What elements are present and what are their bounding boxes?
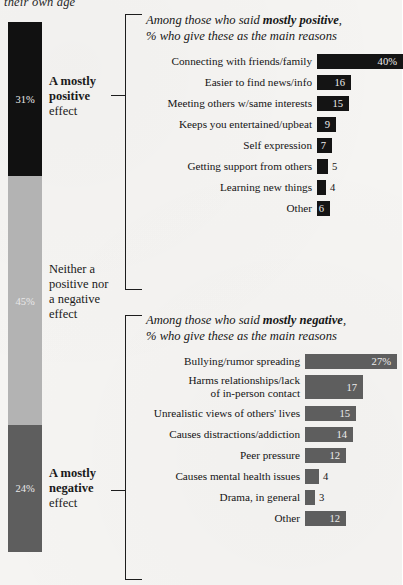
- bar-row: Bullying/rumor spreading27%: [146, 353, 398, 369]
- bar-value-label: 15: [332, 98, 349, 109]
- bar: [305, 469, 319, 484]
- bar-value-label: 14: [336, 429, 353, 440]
- bar-track: 40%: [317, 53, 403, 69]
- bar-row-label: Easier to find news/info: [146, 76, 317, 89]
- bar-value-label: 15: [339, 408, 356, 419]
- bar-value-label: 9: [325, 119, 336, 130]
- bar-value-label: 40%: [378, 56, 403, 67]
- bar-value-label: 17: [346, 382, 363, 393]
- bar-track: 5: [317, 158, 398, 174]
- bar-row-label: Causes distractions/addiction: [146, 428, 305, 441]
- bar: [317, 159, 328, 174]
- bar-row: Self expression7: [146, 137, 398, 153]
- negative-reasons-rows: Bullying/rumor spreading27%Harms relatio…: [146, 353, 398, 526]
- bar-row-label: Peer pressure: [146, 449, 305, 462]
- bar: 6: [317, 201, 330, 216]
- bar-row-label: Learning new things: [146, 181, 317, 194]
- panel-negative-title-line2: % who give these as the main reasons: [146, 329, 337, 343]
- stack-segment-negative: 24%: [8, 425, 42, 552]
- top-caption: their own age: [4, 0, 75, 10]
- bar-row-label: Causes mental health issues: [146, 470, 305, 483]
- panel-positive-title-line2: % who give these as the main reasons: [146, 29, 337, 43]
- bar: 40%: [317, 54, 403, 69]
- bar: 12: [305, 448, 346, 463]
- category-label-positive: A mostly positive effect: [49, 74, 119, 119]
- connector-bracket-positive: [125, 14, 142, 290]
- bar-track: 7: [317, 137, 398, 153]
- bar-track: 12: [305, 510, 398, 526]
- bar: [305, 490, 315, 505]
- bar-row-label: Unrealistic views of others' lives: [146, 407, 305, 420]
- bar-row: Other12: [146, 510, 398, 526]
- bar-row-label: Bullying/rumor spreading: [146, 355, 305, 368]
- stack-segment-positive: 31%: [8, 22, 42, 176]
- connector-stub-negative: [111, 490, 126, 491]
- bar-row: Connecting with friends/family40%: [146, 53, 398, 69]
- bar-track: 4: [317, 179, 398, 195]
- bar-row: Harms relationships/lack of in-person co…: [146, 374, 398, 400]
- bar: 15: [305, 406, 356, 421]
- bar-track: 16: [317, 74, 398, 90]
- category-label-neutral-line4: effect: [49, 307, 77, 321]
- panel-negative-title: Among those who said mostly negative, % …: [146, 312, 398, 344]
- bar-track: 27%: [305, 353, 398, 369]
- panel-positive-title-post: ,: [339, 13, 342, 27]
- bar-value-label: 6: [319, 203, 330, 214]
- bar-value-label: 3: [315, 492, 324, 503]
- bar-row: Causes distractions/addiction14: [146, 426, 398, 442]
- stack-segment-neutral: 45%: [8, 176, 42, 425]
- bar-row: Other6: [146, 200, 398, 216]
- bar-row: Getting support from others5: [146, 158, 398, 174]
- panel-positive-reasons: Among those who said mostly positive, % …: [146, 12, 398, 221]
- category-label-neutral-line2: positive nor: [49, 277, 108, 291]
- bar-track: 3: [305, 489, 398, 505]
- bar-row-label: Keeps you entertained/upbeat: [146, 118, 317, 131]
- bar-track: 17: [305, 374, 398, 400]
- bar-row-label: Other: [146, 202, 317, 215]
- bar-value-label: 27%: [372, 356, 397, 367]
- bar: 15: [317, 96, 349, 111]
- bar-track: 4: [305, 468, 398, 484]
- category-label-neutral-line3: a negative: [49, 292, 100, 306]
- bar: 16: [317, 75, 351, 90]
- bar-row-label: Drama, in general: [146, 491, 305, 504]
- bar-row: Causes mental health issues4: [146, 468, 398, 484]
- panel-negative-title-pre: Among those who said: [146, 313, 263, 327]
- panel-negative-reasons: Among those who said mostly negative, % …: [146, 312, 398, 531]
- bar-row-label: Getting support from others: [146, 160, 317, 173]
- bar-track: 15: [305, 405, 398, 421]
- connector-bracket-negative: [125, 315, 142, 580]
- bar: 7: [317, 138, 332, 153]
- panel-positive-title-pre: Among those who said: [146, 13, 263, 27]
- category-label-neutral-line1: Neither a: [49, 262, 95, 276]
- bar: 9: [317, 117, 336, 132]
- bar-row: Drama, in general3: [146, 489, 398, 505]
- stack-segment-positive-value: 31%: [8, 94, 42, 105]
- bar-row-label: Connecting with friends/family: [146, 55, 317, 68]
- bar-row: Learning new things4: [146, 179, 398, 195]
- bar-value-label: 5: [328, 161, 337, 172]
- panel-negative-title-bold: mostly negative: [263, 313, 343, 327]
- bar-value-label: 16: [334, 77, 351, 88]
- panel-positive-title-bold: mostly positive: [263, 13, 339, 27]
- bar-value-label: 4: [326, 182, 335, 193]
- stack-segment-neutral-value: 45%: [8, 295, 42, 306]
- bar: [317, 180, 326, 195]
- bar: 17: [305, 375, 363, 399]
- category-label-negative: A mostly negative effect: [49, 466, 119, 511]
- bar-value-label: 7: [321, 140, 332, 151]
- bar-row-label: Harms relationships/lack of in-person co…: [146, 374, 305, 399]
- bar: 27%: [305, 354, 397, 369]
- bar-row: Keeps you entertained/upbeat9: [146, 116, 398, 132]
- bar-value-label: 4: [319, 471, 328, 482]
- bar-track: 9: [317, 116, 398, 132]
- bar: 14: [305, 427, 353, 442]
- bar-track: 15: [317, 95, 398, 111]
- bar-value-label: 12: [329, 513, 346, 524]
- stack-segment-negative-value: 24%: [8, 483, 42, 494]
- bar-value-label: 12: [329, 450, 346, 461]
- panel-negative-title-post: ,: [343, 313, 346, 327]
- connector-stub-positive: [111, 95, 126, 96]
- category-label-positive-line3: effect: [49, 104, 77, 118]
